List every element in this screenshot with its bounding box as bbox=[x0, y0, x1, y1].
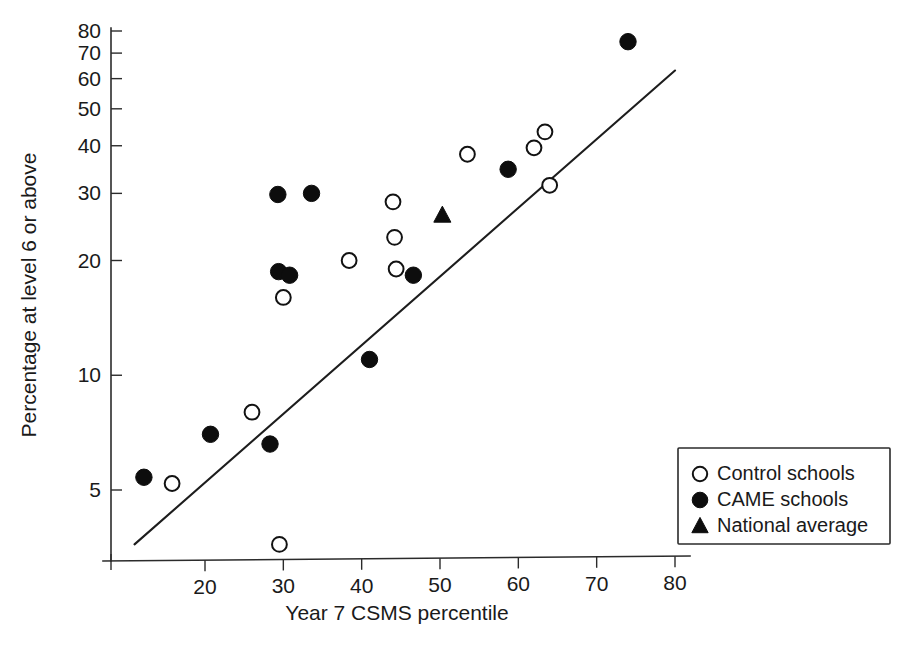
data-point-came-10[interactable] bbox=[620, 33, 636, 49]
data-point-control-9[interactable] bbox=[527, 140, 542, 155]
data-point-control-10[interactable] bbox=[538, 124, 553, 139]
x-axis bbox=[103, 556, 690, 561]
y-tick-label-30: 30 bbox=[78, 181, 101, 204]
y-axis-title: Percentage at level 6 or above bbox=[17, 153, 40, 438]
data-point-came-2[interactable] bbox=[262, 436, 278, 452]
series-came-schools bbox=[136, 33, 637, 485]
y-tick-label-80: 80 bbox=[78, 19, 101, 42]
legend-marker-control-schools bbox=[693, 467, 707, 481]
x-tick-label-70: 70 bbox=[585, 572, 608, 595]
data-point-control-0[interactable] bbox=[165, 476, 180, 491]
series-national-average bbox=[434, 206, 451, 222]
data-point-control-4[interactable] bbox=[342, 253, 357, 268]
x-tick-label-80: 80 bbox=[663, 571, 686, 594]
x-tick-label-60: 60 bbox=[507, 572, 530, 595]
data-point-control-5[interactable] bbox=[386, 194, 401, 209]
y-tick-label-50: 50 bbox=[78, 97, 101, 120]
x-tick-label-50: 50 bbox=[428, 573, 451, 596]
y-tick-label-20: 20 bbox=[78, 249, 101, 272]
x-axis-title: Year 7 CSMS percentile bbox=[285, 601, 508, 624]
trend-line bbox=[135, 71, 676, 545]
data-point-came-8[interactable] bbox=[405, 267, 421, 283]
y-axis-ticks: 51020304050607080 bbox=[78, 19, 122, 501]
y-tick-label-10: 10 bbox=[78, 363, 101, 386]
data-point-came-6[interactable] bbox=[303, 185, 319, 201]
x-tick-label-30: 30 bbox=[272, 574, 295, 597]
data-point-control-1[interactable] bbox=[245, 405, 260, 420]
data-point-came-0[interactable] bbox=[136, 469, 152, 485]
data-point-came-5[interactable] bbox=[281, 267, 297, 283]
scatter-plot: 51020304050607080 20304050607080 Year 7 … bbox=[0, 0, 912, 645]
y-tick-label-40: 40 bbox=[78, 134, 101, 157]
data-point-control-11[interactable] bbox=[542, 178, 557, 193]
data-point-control-2[interactable] bbox=[272, 537, 287, 552]
data-points-group bbox=[136, 33, 637, 551]
data-point-control-8[interactable] bbox=[460, 147, 475, 162]
legend-label-came-schools[interactable]: CAME schools bbox=[717, 488, 848, 510]
data-point-national-average[interactable] bbox=[434, 206, 451, 222]
y-tick-label-60: 60 bbox=[78, 67, 101, 90]
data-point-control-7[interactable] bbox=[389, 262, 404, 277]
series-control-schools bbox=[165, 124, 557, 551]
legend[interactable]: Control schoolsCAME schoolsNational aver… bbox=[678, 448, 890, 544]
trend-line-group bbox=[135, 71, 676, 545]
data-point-came-1[interactable] bbox=[202, 426, 218, 442]
y-tick-label-70: 70 bbox=[78, 41, 101, 64]
data-point-control-6[interactable] bbox=[387, 230, 402, 245]
legend-marker-came-schools bbox=[692, 492, 708, 508]
data-point-came-3[interactable] bbox=[270, 186, 286, 202]
data-point-came-9[interactable] bbox=[500, 161, 516, 177]
legend-label-national-average[interactable]: National average bbox=[717, 514, 868, 536]
x-axis-line bbox=[103, 556, 690, 561]
x-tick-label-20: 20 bbox=[193, 575, 216, 598]
legend-label-control-schools[interactable]: Control schools bbox=[717, 462, 855, 484]
data-point-came-7[interactable] bbox=[361, 351, 377, 367]
data-point-control-3[interactable] bbox=[276, 290, 291, 305]
y-tick-label-5: 5 bbox=[89, 478, 101, 501]
x-tick-label-40: 40 bbox=[350, 574, 373, 597]
chart-figure: 51020304050607080 20304050607080 Year 7 … bbox=[0, 0, 912, 645]
